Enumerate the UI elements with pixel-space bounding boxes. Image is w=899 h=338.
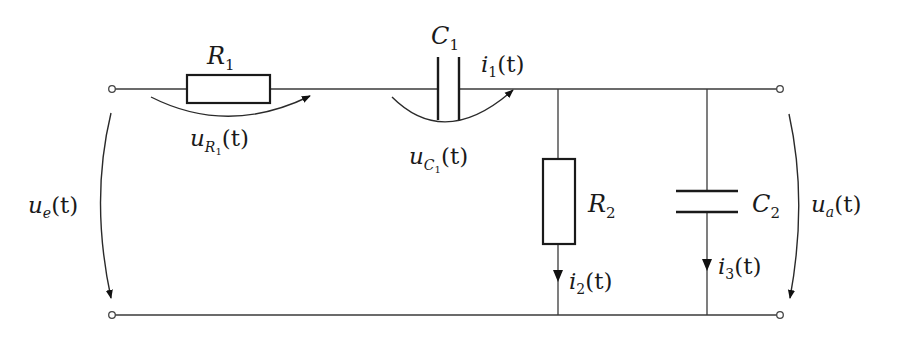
capacitor-c2 (676, 191, 738, 212)
resistor-r1 (187, 75, 270, 103)
label-ue: ue(t) (28, 192, 78, 221)
label-ua: ua(t) (811, 191, 861, 220)
circuit-diagram: R1 C1 R2 C2 uR1(t) uC1(t) ue(t) ua(t) i1… (0, 0, 899, 338)
label-uc1: uC1(t) (409, 143, 468, 175)
voltage-arrow-ua (789, 114, 799, 298)
current-arrow-i2 (553, 270, 563, 282)
label-r2: R2 (587, 190, 616, 222)
voltage-arrow-ue (101, 113, 112, 298)
label-ur1: uR1(t) (190, 125, 249, 157)
label-i2: i2(t) (569, 268, 612, 297)
label-c1: C1 (431, 22, 459, 54)
label-r1: R1 (206, 42, 235, 74)
terminal-output-bottom (777, 312, 784, 319)
terminals (109, 86, 784, 319)
capacitor-c1 (438, 57, 459, 120)
terminal-input-bottom (109, 312, 116, 319)
terminal-input-top (109, 86, 116, 93)
label-i3: i3(t) (718, 253, 761, 282)
voltage-arrow-uc1 (392, 90, 513, 122)
terminal-output-top (777, 86, 784, 93)
current-arrow-i3 (702, 259, 712, 271)
label-c2: C2 (752, 190, 780, 222)
wires (115, 89, 777, 315)
label-i1: i1(t) (481, 51, 524, 80)
resistor-r2 (543, 159, 575, 244)
